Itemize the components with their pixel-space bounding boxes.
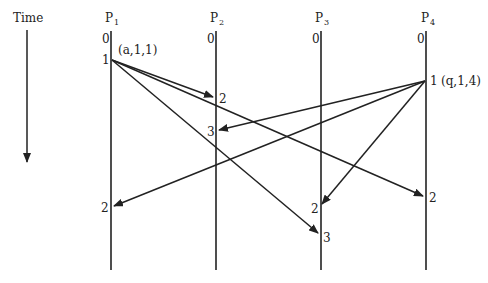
- svg-text:3: 3: [324, 18, 329, 27]
- p3-event-3: 3: [323, 231, 331, 245]
- time-label: Time: [13, 11, 43, 25]
- message-p1-to-p3: [112, 60, 318, 233]
- svg-text:4: 4: [430, 18, 435, 27]
- process-header-p3: P 3: [315, 11, 329, 27]
- svg-text:2: 2: [219, 18, 224, 27]
- svg-text:P: P: [210, 11, 218, 25]
- p3-clock-0: 0: [312, 32, 320, 46]
- process-header-p4: P 4: [421, 11, 435, 27]
- process-header-p1: P 1: [105, 11, 119, 27]
- svg-text:1: 1: [114, 18, 119, 27]
- p4-clock-0: 0: [417, 32, 425, 46]
- message-p4-to-p3: [322, 81, 425, 204]
- svg-text:P: P: [315, 11, 323, 25]
- p1-event-2: 2: [101, 201, 109, 215]
- p4-event-1-annotation: (q,1,4): [441, 74, 481, 88]
- svg-text:P: P: [421, 11, 429, 25]
- message-p1-to-p4: [112, 60, 423, 196]
- p1-clock-0: 0: [102, 32, 110, 46]
- p2-event-2: 2: [219, 92, 227, 106]
- message-p1-to-p2: [112, 60, 213, 97]
- p4-event-1: 1: [430, 74, 438, 88]
- svg-text:P: P: [105, 11, 113, 25]
- p1-event-1-annotation: (a,1,1): [118, 43, 157, 57]
- lamport-clock-diagram: Time P 1 P 2 P 3 P 4 0 0 0 0 1 (a,1,1) 1…: [0, 0, 488, 283]
- message-p4-to-p1: [114, 81, 425, 206]
- process-header-p2: P 2: [210, 11, 224, 27]
- p2-clock-0: 0: [207, 32, 215, 46]
- p1-event-1: 1: [102, 53, 110, 67]
- p2-event-3: 3: [207, 125, 215, 139]
- p4-event-2: 2: [429, 191, 437, 205]
- p3-event-2: 2: [311, 202, 319, 216]
